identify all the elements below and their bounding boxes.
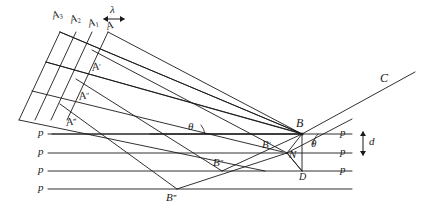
label-A-triple-prime: A‴	[65, 115, 78, 128]
diagram-vector-layer	[0, 0, 433, 212]
incident-ray-to-Bppp	[60, 104, 177, 189]
d-spacing-arrowhead-down	[360, 151, 366, 156]
label-d-spacing: d	[369, 136, 375, 147]
label-p-left-3: p	[38, 164, 44, 175]
label-p-left-1: p	[38, 127, 44, 138]
wavefront-col-A1	[51, 32, 92, 120]
label-theta-left: θ	[188, 121, 193, 132]
label-p-right-3: p	[340, 164, 346, 175]
reflected-ray-B-to-C	[302, 72, 415, 134]
label-B-prime: B′	[262, 139, 271, 150]
label-A-double-prime: A″	[78, 89, 91, 102]
label-C: C	[380, 72, 388, 84]
label-p-right-1: p	[340, 127, 346, 138]
incident-ray-to-Bp	[92, 50, 287, 153]
label-p-left-4: p	[38, 182, 44, 193]
incident-ray-to-B	[108, 32, 302, 134]
wavefront-col-A	[67, 32, 108, 120]
label-p-left-2: p	[38, 146, 44, 157]
incident-beam-top-edge	[60, 32, 300, 133]
incident-ray-to-Bpp	[76, 79, 222, 171]
label-B: B	[296, 117, 303, 129]
diagram-canvas: A3 A2 A1 A λ A′ A″ A‴ p p p p p p p d B …	[0, 0, 433, 212]
label-theta-right: θ	[311, 138, 316, 149]
wavefront-col-A2	[35, 32, 76, 120]
label-D: D	[299, 172, 306, 182]
point-B-marker	[300, 132, 303, 135]
label-B-triple-prime: B‴	[166, 192, 177, 203]
label-B-double-prime: B″	[213, 157, 224, 168]
lambda-arrowhead-right	[120, 16, 125, 22]
d-spacing-arrowhead-up	[360, 131, 366, 136]
label-N: N	[289, 149, 296, 160]
label-p-right-2: p	[340, 146, 346, 157]
label-lambda: λ	[110, 4, 115, 15]
wavefront-col-A3	[19, 32, 60, 120]
